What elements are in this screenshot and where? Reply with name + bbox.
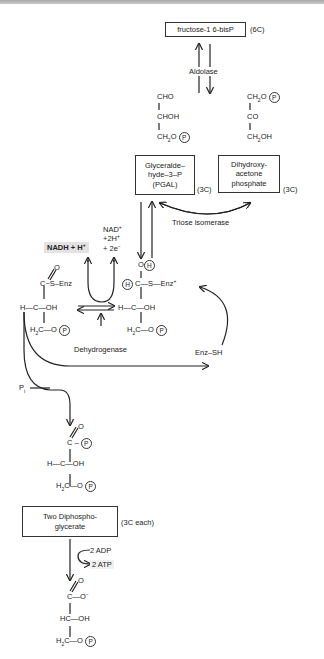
phosphate-circle-icon: P: [85, 636, 96, 647]
adp-label: 2 ADP: [90, 546, 111, 555]
pg-o: O: [78, 576, 84, 585]
diphosphoglycerate-box: Two Diphospho- glycerate: [22, 506, 118, 537]
pgal-line2: hyde–3–P: [148, 170, 182, 180]
hemithioacetal-o: OH: [138, 260, 155, 271]
hydrogen-circle-icon: H: [144, 260, 155, 271]
dhap-ch2o: CH2O P: [247, 92, 280, 103]
hemithioacetal-c-s-enz: H C—S—Enz+: [122, 279, 176, 290]
hemithioacetal-h2c-o: H2C—O P: [127, 325, 167, 336]
dhap-ch2oh: CH2OH: [247, 132, 272, 141]
pgal-cho: CHO: [157, 92, 174, 101]
phosphate-circle-icon: P: [269, 92, 280, 103]
inorganic-phosphate-label: Pi: [19, 383, 25, 392]
thioester-c-s-enz: C~S–Enz: [40, 279, 72, 288]
pg-h2c-o: H2C—O P: [56, 636, 96, 647]
thioester-h2c-o: H2C—O P: [30, 325, 70, 336]
phosphate-circle-icon: P: [81, 438, 92, 449]
enz-sh-label: Enz–SH: [195, 348, 223, 357]
atp-label: 2 ATP: [90, 560, 114, 569]
nadh-highlight: NADH + H+: [44, 242, 89, 253]
dhap-line3: phosphate: [231, 179, 266, 189]
dehydrogenase-label: Dehydrogenase: [74, 345, 127, 354]
bpg-c-p: C – P: [67, 438, 92, 449]
dhap-co: CO: [247, 112, 258, 121]
pg-hc-oh: HC—OH: [60, 614, 90, 623]
pgal-line1: Glyceralde–: [145, 161, 185, 171]
dhap-line1: Dihydroxy-: [231, 160, 267, 170]
thioester-h-c-oh: H—C—OH: [20, 303, 57, 312]
phosphate-circle-icon: P: [156, 325, 167, 336]
pg-c-o: C—O−: [67, 592, 89, 601]
dhap-box: Dihydroxy- acetone phosphate: [218, 155, 280, 193]
phosphate-circle-icon: P: [179, 132, 190, 143]
electrons-label: + 2e−: [103, 244, 121, 253]
bpg-h2c-o: H2C—O P: [56, 481, 96, 492]
phosphate-circle-icon: P: [85, 481, 96, 492]
bpg-line1: Two Diphospho-: [43, 512, 97, 522]
hydrogen-circle-icon: H: [122, 279, 133, 290]
dhap-carbon-count: (3C): [283, 185, 298, 194]
fructose-bisphosphate-box: fructose-1 6-bisP: [165, 22, 246, 37]
dhap-line2: acetone: [236, 169, 263, 179]
bpg-o: O: [78, 422, 84, 431]
fructose-label: fructose-1 6-bisP: [177, 25, 234, 35]
phosphate-circle-icon: P: [59, 325, 70, 336]
pgal-ch2o: CH2O P: [157, 132, 190, 143]
pgal-choh: CHOH: [157, 112, 179, 121]
pgal-carbon-count: (3C): [197, 185, 212, 194]
bpg-h-c-oh: H—C—OH: [47, 459, 84, 468]
aldolase-label: Aldolase: [188, 67, 219, 76]
fructose-carbon-count: (6C): [250, 25, 265, 34]
pgal-box: Glyceralde– hyde–3–P (PGAL): [135, 155, 195, 195]
triose-isomerase-label: Triose isomerase: [172, 218, 229, 227]
bpg-carbon-count: (3C each): [121, 518, 154, 527]
pgal-line3: (PGAL): [152, 180, 177, 190]
bpg-line2: glycerate: [55, 522, 85, 532]
hemithioacetal-h-c-oh: H—C—OH: [118, 303, 155, 312]
thioester-o: O: [54, 263, 60, 272]
